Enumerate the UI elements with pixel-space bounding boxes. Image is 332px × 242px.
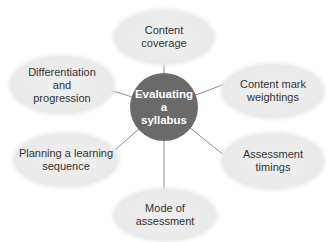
- central-node-label: Evaluating a syllabus: [135, 88, 193, 127]
- node-label: Planning a learning sequence: [19, 147, 113, 173]
- node-assessment-timings: Assessment timings: [222, 133, 324, 189]
- node-label: Content mark weightings: [240, 78, 306, 104]
- node-content-mark-weightings: Content mark weightings: [222, 64, 324, 118]
- node-content-coverage: Content coverage: [114, 10, 214, 64]
- central-node: Evaluating a syllabus: [130, 73, 198, 141]
- node-label: Mode of assessment: [136, 202, 195, 228]
- node-label: Content coverage: [141, 24, 186, 50]
- node-label: Differentiation and progression: [28, 66, 96, 105]
- node-mode-of-assessment: Mode of assessment: [114, 189, 216, 241]
- node-differentiation-progression: Differentiation and progression: [10, 56, 114, 114]
- node-planning-learning-sequence: Planning a learning sequence: [14, 133, 118, 187]
- node-label: Assessment timings: [243, 148, 303, 174]
